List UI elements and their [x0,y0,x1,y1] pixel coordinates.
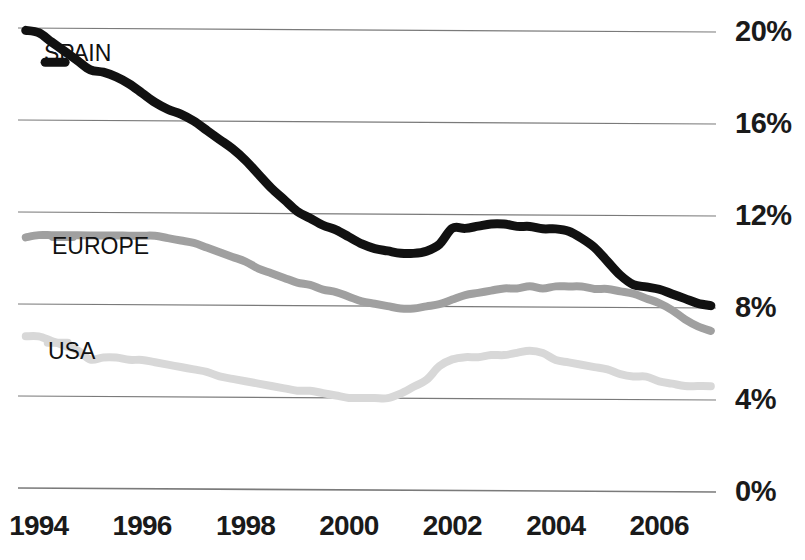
x-axis-tick-1998: 1998 [195,512,295,540]
series-label-usa: USA [48,340,95,363]
gridline-0 [18,488,716,492]
y-axis-tick-12: 12% [735,201,792,230]
gridline-16 [18,120,716,124]
y-axis-tick-8: 8% [735,293,776,322]
y-axis-tick-4: 4% [735,385,776,414]
series-label-europe: EUROPE [52,235,149,258]
x-axis-tick-2006: 2006 [609,512,709,540]
x-axis-tick-2004: 2004 [506,512,606,540]
x-axis-tick-2002: 2002 [402,512,502,540]
y-axis-tick-16: 16% [735,109,792,138]
y-axis-tick-20: 20% [735,17,792,46]
unemployment-rate-chart: 20% 16% 12% 8% 4% 0% 1994 1996 1998 2000… [0,0,805,560]
gridline-20 [18,28,716,32]
chart-plot-area [0,0,805,560]
gridline-12 [18,212,716,216]
x-axis-tick-2000: 2000 [299,512,399,540]
x-axis-tick-1994: 1994 [0,512,89,540]
x-axis-tick-1996: 1996 [92,512,192,540]
series-label-spain: SPAIN [44,42,111,65]
y-axis-tick-0: 0% [735,477,776,506]
series-line-spain [26,30,711,305]
series-line-usa [26,336,711,398]
